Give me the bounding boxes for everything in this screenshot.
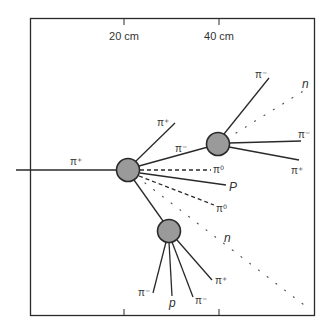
label-v1-p: P: [229, 180, 237, 194]
label-v2-pi-minus-up: π⁻: [255, 69, 267, 80]
chamber-frame: [31, 19, 315, 316]
vertex-2: [207, 133, 230, 156]
track-v3-p: [169, 242, 172, 296]
scale-label-20cm: 20 cm: [109, 30, 139, 42]
track-v1-pi-minus: [139, 147, 208, 166]
label-v1-pi0-a: π⁰: [213, 164, 224, 175]
label-v3-pi-plus: π⁺: [215, 275, 227, 286]
label-v2-neutron: n: [302, 77, 309, 91]
label-v3-pi-minus-b: π⁻: [195, 295, 207, 306]
track-v1-to-v3: [134, 180, 163, 221]
label-v3-p: p: [168, 296, 176, 310]
label-v1-pi0-b: π⁰: [216, 203, 227, 214]
label-v2-pi-plus: π⁺: [291, 165, 303, 176]
label-v2-pi-minus: π⁻: [298, 129, 310, 140]
track-v1-pi-plus: [135, 123, 175, 162]
label-v1-neutron: n: [224, 231, 231, 245]
track-v2-neutron: [236, 90, 305, 133]
track-v1-pi0-b: [139, 176, 214, 205]
label-v3-pi-minus-a: π⁻: [138, 287, 150, 298]
track-v3-pi-minus-a: [153, 242, 166, 293]
track-v3-pi-minus-b: [172, 242, 193, 297]
label-v1-pi-plus: π⁺: [157, 117, 169, 128]
label-v1-pi-minus: π⁻: [175, 143, 187, 154]
track-v2-pi-minus: [229, 141, 301, 143]
label-incoming-pi-plus: π⁺: [70, 156, 82, 167]
vertex-1: [117, 159, 140, 182]
track-v2-pi-plus: [229, 147, 299, 160]
track-v2-pi-minus-up: [224, 78, 269, 134]
track-v3-pi-plus: [177, 240, 212, 280]
bubble-chamber-diagram: 20 cm 40 cm π⁺ π⁺ π⁻ π⁰ P π⁰ n π⁻ n π⁻ π…: [0, 0, 331, 330]
vertex-3: [158, 220, 181, 243]
scale-label-40cm: 40 cm: [204, 30, 234, 42]
